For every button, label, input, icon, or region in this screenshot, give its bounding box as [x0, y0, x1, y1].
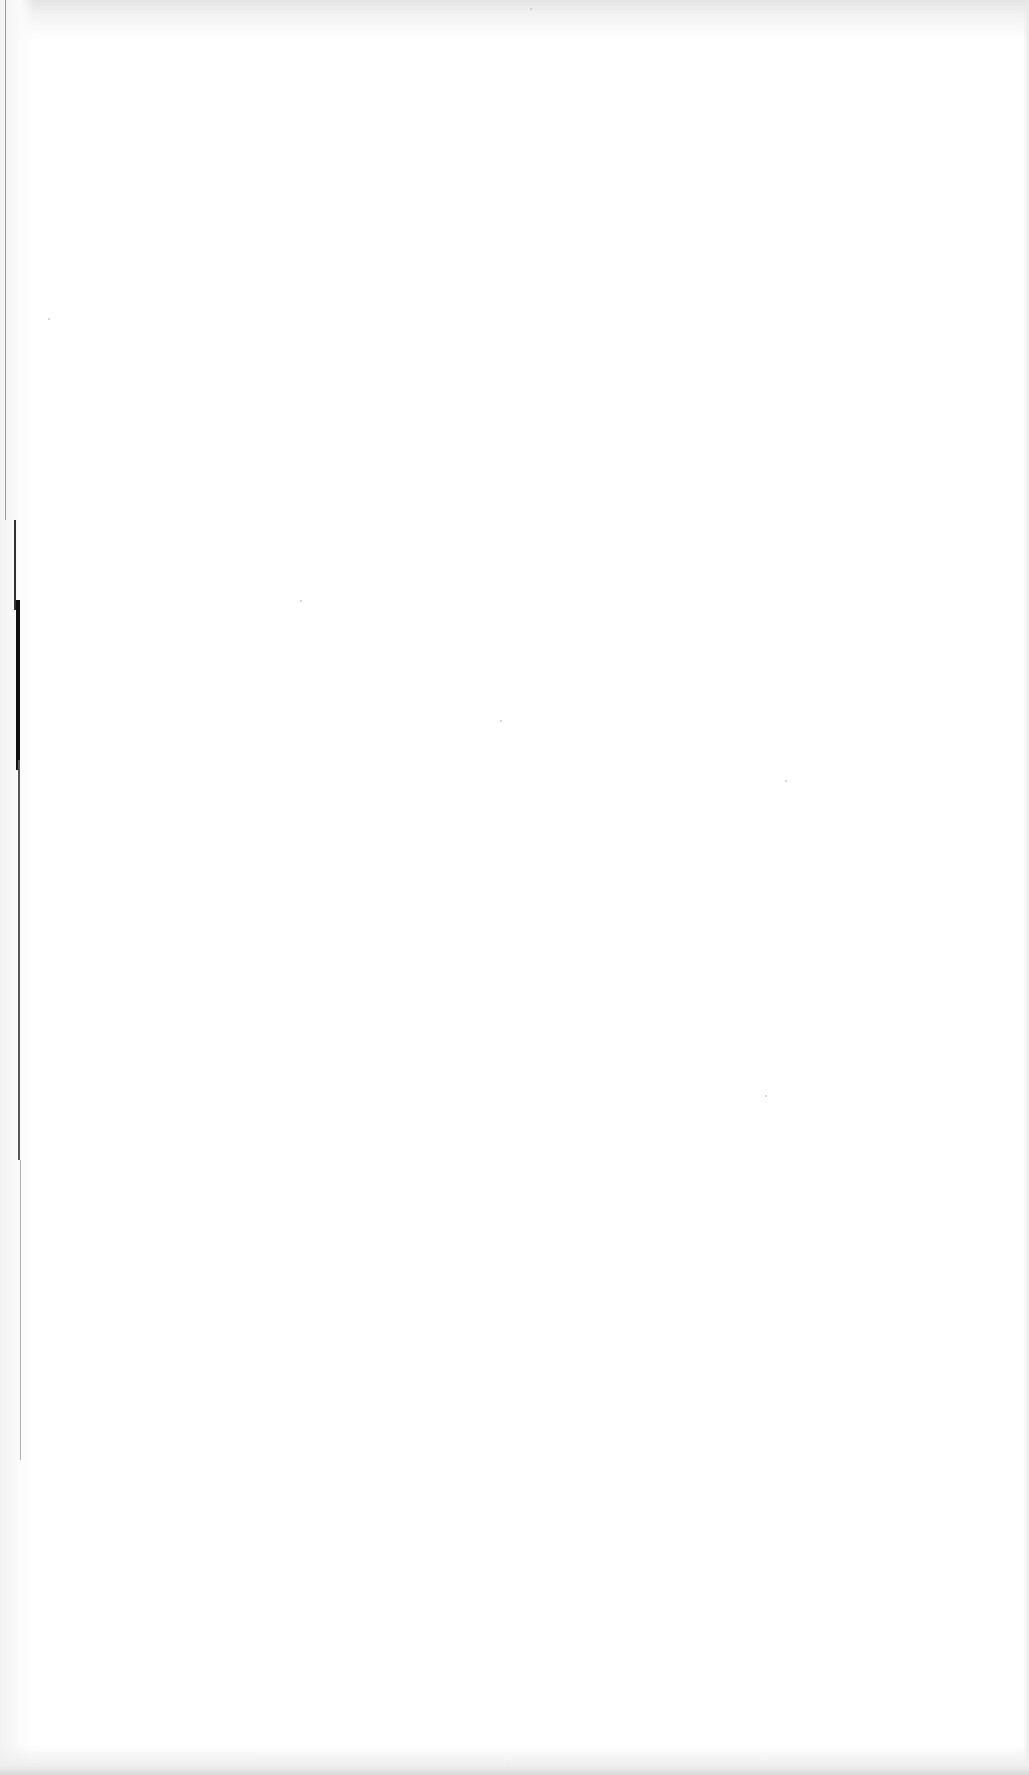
- page-edge-line: [5, 0, 6, 520]
- bottom-scan-shadow: [0, 1745, 1029, 1775]
- page-edge-line: [16, 600, 20, 770]
- scan-speck: [500, 720, 502, 722]
- scan-speck: [530, 8, 532, 10]
- right-scan-shadow: [1023, 0, 1029, 1775]
- page-edge-line: [18, 760, 20, 1160]
- scan-speck: [300, 600, 302, 602]
- scan-speck: [48, 318, 50, 320]
- top-scan-shadow: [0, 0, 1029, 40]
- scan-speck: [785, 780, 787, 782]
- blank-scanned-page: [0, 0, 1029, 1775]
- page-edge-line: [20, 1160, 21, 1460]
- page-edge-line: [14, 520, 16, 610]
- scan-speck: [765, 1095, 767, 1097]
